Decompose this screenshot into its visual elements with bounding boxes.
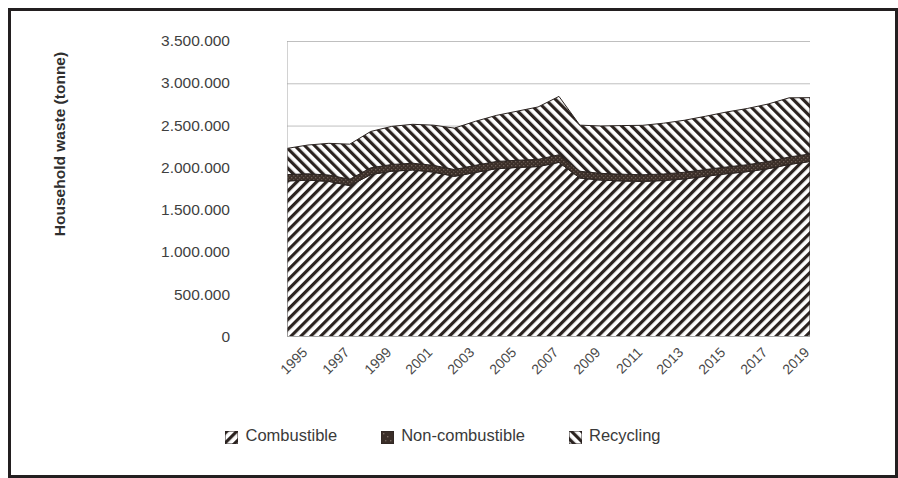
y-axis-tick-label: 1.000.000 [100, 243, 230, 261]
chart-svg [287, 41, 810, 337]
chart-legend: CombustibleNon-combustibleRecycling [0, 418, 886, 452]
x-axis-tick-label: 2017 [737, 344, 770, 377]
legend-item-label: Recycling [589, 426, 661, 445]
hatch-back-swatch [569, 429, 582, 442]
y-axis-title: Household waste (tonne) [51, 44, 69, 244]
plot-area [287, 41, 810, 337]
y-axis-tick-label: 1.500.000 [100, 201, 230, 219]
y-axis-tick-label: 0 [100, 328, 230, 346]
area-series-group [287, 96, 810, 337]
y-axis-tick-label: 2.500.000 [100, 117, 230, 135]
x-axis-tick-label: 2005 [486, 344, 519, 377]
legend-item-label: Combustible [245, 426, 337, 445]
legend-item[interactable]: Recycling [569, 426, 661, 445]
stipple-swatch [381, 429, 394, 442]
y-axis-tick-label: 3.000.000 [100, 74, 230, 92]
x-axis-tick-label: 2003 [444, 344, 477, 377]
y-axis-tick-labels: 0500.0001.000.0001.500.0002.000.0002.500… [100, 0, 230, 462]
x-axis-tick-label: 1995 [277, 344, 310, 377]
x-axis-tick-label: 2007 [528, 344, 561, 377]
x-axis-tick-label: 2011 [612, 344, 645, 377]
legend-item[interactable]: Combustible [225, 426, 337, 445]
x-axis-tick-label: 2009 [570, 344, 603, 377]
x-axis-tick-label: 2013 [654, 344, 687, 377]
x-axis-tick-labels: 1995199719992001200320052007200920112013… [287, 340, 810, 410]
legend-item[interactable]: Non-combustible [381, 426, 525, 445]
area-series-combustible [287, 162, 810, 337]
legend-item-label: Non-combustible [401, 426, 525, 445]
y-axis-tick-label: 3.500.000 [100, 32, 230, 50]
hatch-forward-swatch [225, 429, 238, 442]
x-axis-tick-label: 2019 [779, 344, 812, 377]
x-axis-tick-label: 2001 [402, 344, 435, 377]
y-axis-tick-label: 2.000.000 [100, 159, 230, 177]
y-axis-tick-label: 500.000 [100, 286, 230, 304]
x-axis-tick-label: 2015 [695, 344, 728, 377]
x-axis-tick-label: 1997 [319, 344, 352, 377]
x-axis-tick-label: 1999 [361, 344, 394, 377]
